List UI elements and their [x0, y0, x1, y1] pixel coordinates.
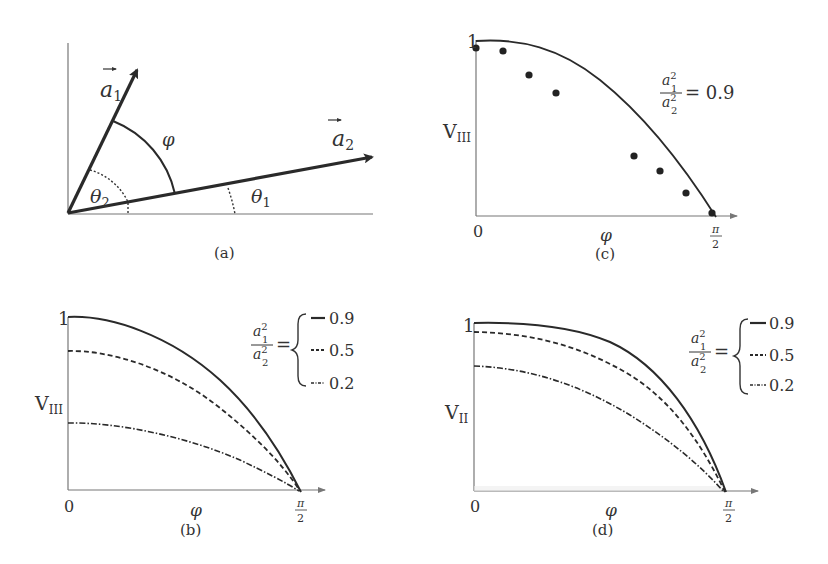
panel-d-x-tick-0: 0: [470, 497, 480, 516]
panel-c-theory-curve: [476, 40, 716, 217]
data-point: [525, 71, 532, 78]
vector-a2-arrow: [68, 157, 372, 213]
panel-c-ylabel: VIII: [442, 120, 471, 145]
panel-b-caption: (b): [180, 521, 201, 539]
panel-c-data-points: [472, 44, 715, 216]
legend-label-0.2: 0.2: [329, 374, 354, 393]
vector-a1-label: a1: [100, 77, 122, 104]
theta1-label: θ1: [251, 185, 271, 210]
panel-d-chart: 1 0 π 2 VII φ (d) a2 1 a2 2 = 0.9 0.5 0.…: [444, 314, 794, 539]
data-point: [630, 152, 637, 159]
panel-b-xlabel: φ: [190, 500, 202, 520]
theta2-label: θ2: [90, 185, 110, 210]
panel-d-baseline-shading: [474, 486, 724, 491]
panel-c-ratio-annotation: a2 1 a2 2 = 0.9: [660, 70, 734, 116]
ratio-denominator-sub: 2: [671, 105, 677, 116]
panel-a-caption: (a): [214, 244, 235, 262]
legend-brace: [734, 319, 748, 394]
legend-equals: =: [714, 341, 729, 362]
panel-b-series-0.2: [68, 423, 299, 491]
panel-c-y-tick-1: 1: [467, 31, 478, 52]
panel-d-y-tick-1: 1: [463, 315, 474, 336]
legend-label-0.9: 0.9: [329, 309, 354, 328]
panel-b-x-tick-pi-num: π: [296, 497, 305, 510]
panel-b-legend: a2 1 a2 2 = 0.9 0.5 0.2: [251, 309, 354, 393]
legend-label-0.5: 0.5: [329, 341, 354, 360]
ratio-value: = 0.9: [685, 82, 734, 103]
panel-b-ylabel: VIII: [34, 392, 63, 417]
legend-label-0.5: 0.5: [769, 346, 794, 365]
legend-label-0.9: 0.9: [769, 314, 794, 333]
legend-equals: =: [276, 334, 291, 355]
legend-ratio-denominator-sub: 2: [700, 364, 706, 375]
data-point: [708, 209, 715, 216]
legend-label-0.2: 0.2: [769, 376, 794, 395]
data-point: [552, 89, 559, 96]
panel-d-x-tick-pi-num: π: [724, 497, 733, 510]
panel-d-xlabel: φ: [605, 500, 617, 520]
figure-canvas: a1 a2 φ θ2 θ1 (a) 1 0 π 2 VIII φ (c): [0, 0, 828, 564]
panel-b-series-0.5: [68, 351, 300, 491]
data-point: [682, 189, 689, 196]
phi-label: φ: [162, 129, 175, 150]
panel-d-ylabel: VII: [444, 401, 468, 426]
panel-b-chart: 1 0 π 2 VIII φ (b) a2 1 a2 2 = 0.9 0.5 0…: [34, 308, 354, 539]
data-point: [656, 167, 663, 174]
vector-a2-label: a2: [332, 126, 354, 153]
legend-ratio-denominator-sub: 2: [262, 357, 268, 368]
legend-brace: [292, 314, 306, 386]
panel-b-y-tick-1: 1: [58, 308, 69, 329]
panel-d-caption: (d): [592, 521, 613, 539]
panel-d-legend: a2 1 a2 2 = 0.9 0.5 0.2: [689, 314, 794, 395]
panel-c-x-tick-0: 0: [473, 222, 483, 241]
panel-c-x-tick-pi-den: 2: [712, 238, 719, 251]
panel-c-xlabel: φ: [600, 225, 612, 245]
data-point: [499, 47, 506, 54]
panel-c-chart: 1 0 π 2 VIII φ (c) a2 1 a2 2 = 0.9: [442, 31, 737, 263]
panel-b-x-tick-pi-den: 2: [297, 512, 304, 525]
panel-c-x-tick-pi-num: π: [711, 223, 720, 236]
panel-c-caption: (c): [595, 245, 615, 263]
panel-a-vector-diagram: a1 a2 φ θ2 θ1 (a): [68, 43, 373, 262]
panel-b-x-tick-0: 0: [64, 497, 74, 516]
panel-d-x-tick-pi-den: 2: [725, 512, 732, 525]
panel-d-series-0.9: [474, 323, 726, 492]
theta1-angle-arc: [228, 188, 235, 214]
